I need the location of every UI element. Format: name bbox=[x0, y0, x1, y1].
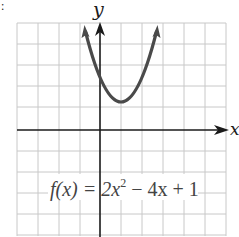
graph-canvas: y x f(x) = 2x2 − 4x + 1 bbox=[0, 0, 239, 237]
x-axis-label: x bbox=[230, 119, 239, 139]
equation-prefix: f(x) = 2x bbox=[50, 178, 120, 201]
y-axis-label: y bbox=[92, 0, 104, 20]
x-axis bbox=[17, 125, 229, 135]
equation-suffix: − 4x + 1 bbox=[126, 178, 199, 200]
